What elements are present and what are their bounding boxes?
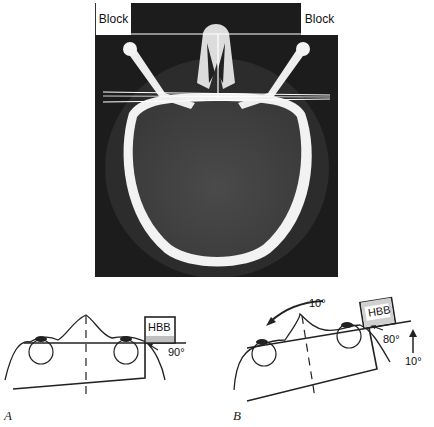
panel-a-angle-label: 90°	[168, 346, 185, 358]
panel-a-letter: A	[4, 408, 12, 424]
panel-a-hbb-label: HBB	[148, 321, 171, 333]
ct-scan-graphic	[95, 3, 338, 277]
ct-scan-image	[95, 3, 338, 277]
panel-b-tilt-label: 10°	[405, 355, 422, 367]
panel-b-angle-label: 80°	[383, 333, 400, 345]
block-left-label: Block	[96, 3, 131, 35]
panel-b-hbb-label: HBB	[367, 303, 391, 318]
block-left-edge	[95, 3, 96, 35]
block-right-label: Block	[301, 3, 338, 35]
panel-b-rotation-label: 10°	[309, 297, 326, 309]
panel-b-letter: B	[233, 408, 241, 424]
